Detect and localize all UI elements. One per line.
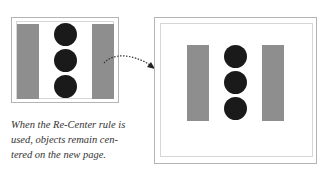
caption-line-1: When the Re-Center rule is	[11, 117, 161, 132]
target-circle-middle	[224, 71, 247, 94]
target-circle-bottom	[224, 97, 247, 120]
target-gray-bar-right	[262, 45, 284, 121]
source-circle-middle	[54, 49, 77, 72]
caption-line-3: tered on the new page.	[11, 147, 161, 162]
target-page	[154, 17, 317, 164]
target-circle-top	[224, 45, 247, 68]
target-gray-bar-left	[187, 45, 209, 121]
source-circle-top	[54, 23, 77, 46]
source-circle-bottom	[54, 75, 77, 98]
caption-line-2: used, objects remain cen-	[11, 132, 161, 147]
dotted-arrow-icon	[100, 50, 160, 80]
figure-caption: When the Re-Center rule is used, objects…	[11, 117, 161, 162]
source-gray-bar-left	[17, 24, 39, 99]
